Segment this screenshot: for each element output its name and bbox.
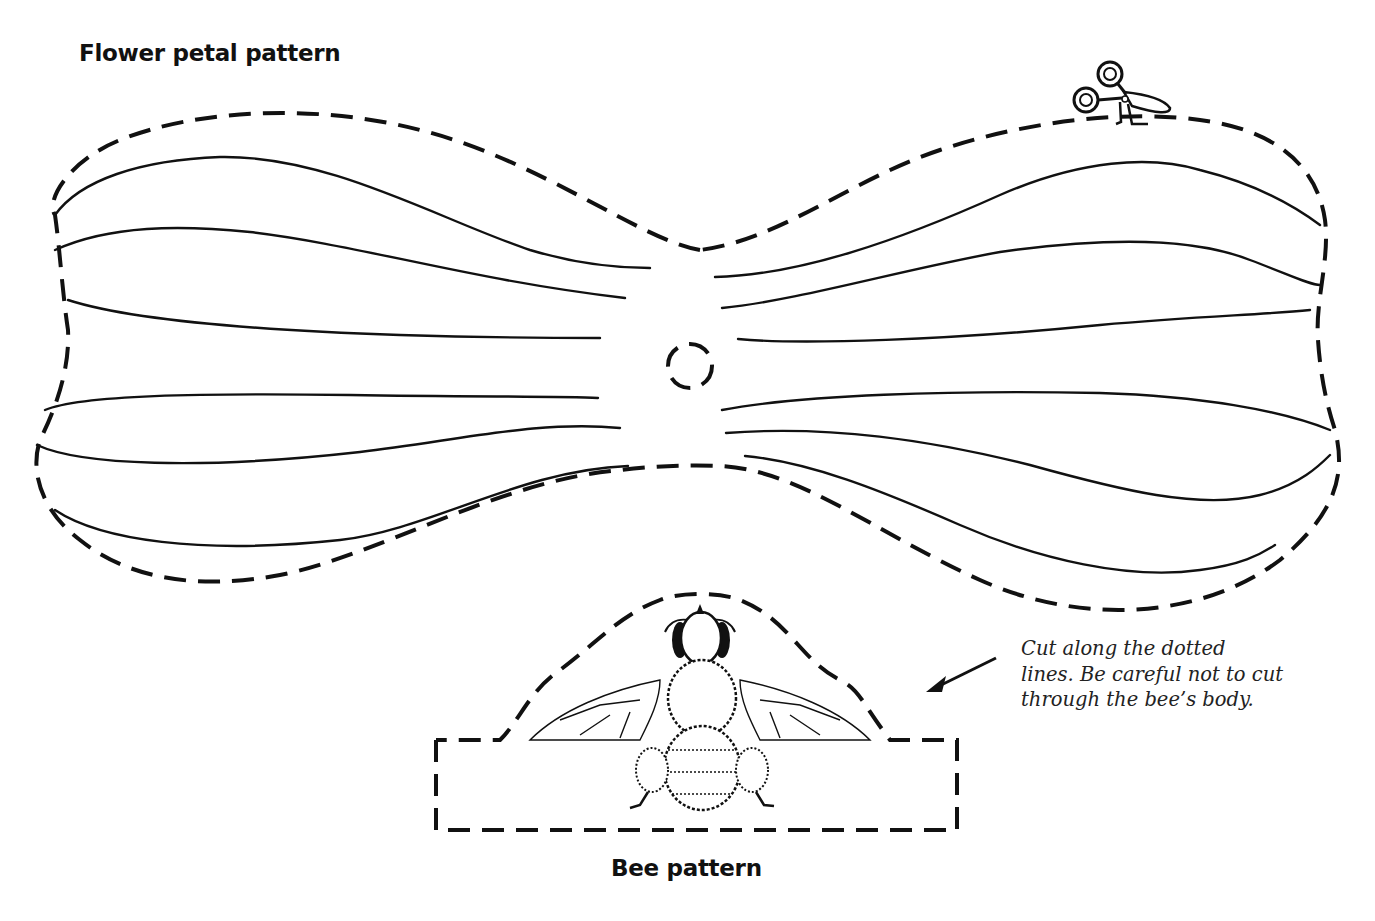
bee-pattern-title: Bee pattern <box>611 855 762 881</box>
left-petal-veins <box>37 157 650 546</box>
petal-outline <box>36 113 1339 610</box>
arrow-icon <box>926 658 996 692</box>
pattern-artwork <box>0 0 1375 921</box>
cutting-instructions: Cut along the dotted lines. Be careful n… <box>1021 636 1371 713</box>
right-petal-veins <box>715 162 1330 573</box>
center-hole <box>668 344 712 388</box>
instruction-line: lines. Be careful not to cut <box>1021 662 1371 688</box>
instruction-line: Cut along the dotted <box>1021 636 1371 662</box>
instruction-line: through the bee’s body. <box>1021 687 1371 713</box>
bee-illustration <box>530 604 870 810</box>
